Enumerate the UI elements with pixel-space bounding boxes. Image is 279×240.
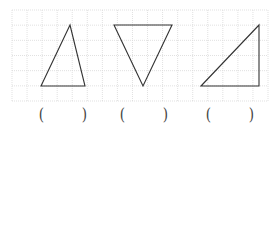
answer-blank-2[interactable]: ( ) (119, 104, 169, 124)
answer-blank-3[interactable]: ( ) (205, 104, 255, 124)
answer-blank-1[interactable]: ( ) (38, 104, 88, 124)
open-paren: ( (120, 104, 125, 124)
open-paren: ( (39, 104, 44, 124)
close-paren: ) (82, 104, 87, 124)
open-paren: ( (206, 104, 211, 124)
close-paren: ) (249, 104, 254, 124)
close-paren: ) (163, 104, 168, 124)
